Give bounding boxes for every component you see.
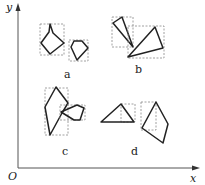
group-c-label: c [62, 146, 68, 157]
axes [18, 8, 196, 168]
group-c [45, 87, 85, 135]
group-b-label: b [135, 64, 142, 75]
y-axis-label: y [6, 2, 12, 13]
triangle-shape [113, 17, 133, 47]
group-a-label: a [64, 69, 71, 80]
group-d [101, 102, 168, 143]
x-axis-label: x [190, 173, 196, 184]
y-axis-arrow-icon [16, 3, 21, 11]
triangle-shape [101, 104, 134, 122]
quadrilateral-shape [142, 102, 168, 143]
origin-label: O [8, 171, 17, 182]
group-b [112, 17, 164, 58]
polygon-shape [61, 105, 84, 120]
bounding-box-diagram: y O x a b c d [0, 0, 205, 185]
x-axis-arrow-icon [192, 166, 200, 171]
polygon-shape [71, 41, 88, 60]
polygon-shape [41, 24, 64, 54]
group-d-label: d [131, 146, 138, 157]
diagram-svg [0, 0, 205, 185]
group-a [40, 24, 88, 61]
